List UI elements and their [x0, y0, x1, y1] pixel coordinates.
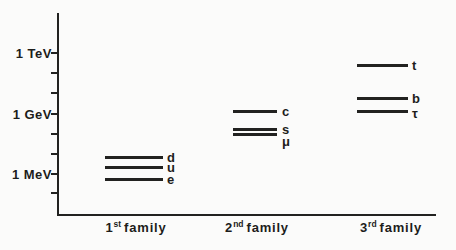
level-line-u: [105, 166, 163, 169]
level-line-b: [357, 97, 408, 100]
level-line-τ: [357, 110, 408, 113]
level-line-c: [233, 110, 277, 113]
level-line-d: [105, 156, 163, 159]
family-ordinal: 2: [225, 220, 233, 235]
level-line-s: [233, 128, 277, 131]
particle-label-τ: τ: [412, 107, 418, 120]
x-axis-line: [57, 214, 436, 216]
y-axis-tick: [51, 192, 57, 194]
y-axis-line: [57, 13, 59, 216]
particle-label-e: e: [167, 173, 174, 186]
y-axis-tick-label-1-GeV: 1 GeV: [0, 107, 52, 122]
family-ordinal: 1: [106, 220, 114, 235]
level-line-t: [357, 64, 408, 67]
level-line-e: [105, 178, 163, 181]
family-ordinal-suffix: rd: [368, 219, 377, 229]
particle-label-μ: μ: [282, 135, 290, 148]
family-word: family: [380, 220, 422, 235]
x-axis-label-family-1: 1stfamily: [106, 220, 167, 235]
family-ordinal-suffix: st: [114, 219, 122, 229]
family-ordinal-suffix: nd: [233, 219, 243, 229]
mass-level-chart: 1 TeV1 GeV1 MeVdue1stfamilycsμ2ndfamilyt…: [0, 0, 456, 250]
y-axis-tick: [51, 92, 57, 94]
y-axis-tick-label-1-TeV: 1 TeV: [0, 46, 52, 61]
y-axis-tick: [51, 72, 57, 74]
y-axis-tick-label-1-MeV: 1 MeV: [0, 167, 52, 182]
family-word: family: [247, 220, 289, 235]
level-line-μ: [233, 133, 277, 136]
x-axis-label-family-2: 2ndfamily: [225, 220, 289, 235]
y-axis-tick: [51, 153, 57, 155]
particle-label-c: c: [282, 105, 289, 118]
y-axis-tick: [51, 133, 57, 135]
particle-label-t: t: [412, 59, 416, 72]
family-word: family: [124, 220, 166, 235]
x-axis-label-family-3: 3rdfamily: [360, 220, 422, 235]
family-ordinal: 3: [360, 220, 368, 235]
particle-label-b: b: [412, 92, 420, 105]
